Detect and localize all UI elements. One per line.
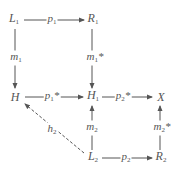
label-p2-sub: 2 <box>127 156 131 164</box>
label-m2: m2 <box>85 121 98 136</box>
label-m1s-sup: * <box>98 50 104 62</box>
label-m1-star: m1* <box>86 51 105 66</box>
label-p1s-sup: * <box>54 89 60 101</box>
node-H: H <box>11 91 20 103</box>
label-m1: m1 <box>9 51 22 66</box>
label-m1-base: m <box>10 50 18 62</box>
node-R1-sub: 1 <box>95 18 99 26</box>
node-R2: R2 <box>156 150 167 166</box>
node-L2: L2 <box>88 150 98 166</box>
node-L1-base: L <box>9 11 16 25</box>
node-H1: H1 <box>87 89 99 105</box>
label-h2-sub: 2 <box>53 128 57 136</box>
node-L1-sub: 1 <box>16 18 20 26</box>
label-h2: h2 <box>47 123 58 138</box>
label-m2s-sup: * <box>165 120 171 132</box>
node-L2-base: L <box>88 149 95 163</box>
label-m2-sub: 2 <box>94 126 98 134</box>
node-H1-base: H <box>87 88 96 102</box>
label-p1-star: p1* <box>44 90 61 105</box>
node-L2-sub: 2 <box>95 156 99 164</box>
node-L1: L1 <box>9 12 19 28</box>
label-m2-base: m <box>86 120 94 132</box>
label-p2s-sup: * <box>125 89 131 101</box>
label-m1s-base: m <box>87 50 95 62</box>
label-m2-star: m2* <box>153 121 172 136</box>
label-p1: p1 <box>47 13 58 28</box>
node-X: X <box>157 91 164 103</box>
node-R1: R1 <box>88 12 99 28</box>
label-p2: p2 <box>121 151 132 166</box>
label-p2-star: p2* <box>115 90 132 105</box>
label-p1-sub: 1 <box>53 18 57 26</box>
node-X-base: X <box>157 90 164 104</box>
node-H1-sub: 1 <box>96 95 100 103</box>
node-R2-sub: 2 <box>163 156 167 164</box>
label-m2s-base: m <box>154 120 162 132</box>
node-H-base: H <box>11 90 20 104</box>
label-m1-sub: 1 <box>18 56 22 64</box>
